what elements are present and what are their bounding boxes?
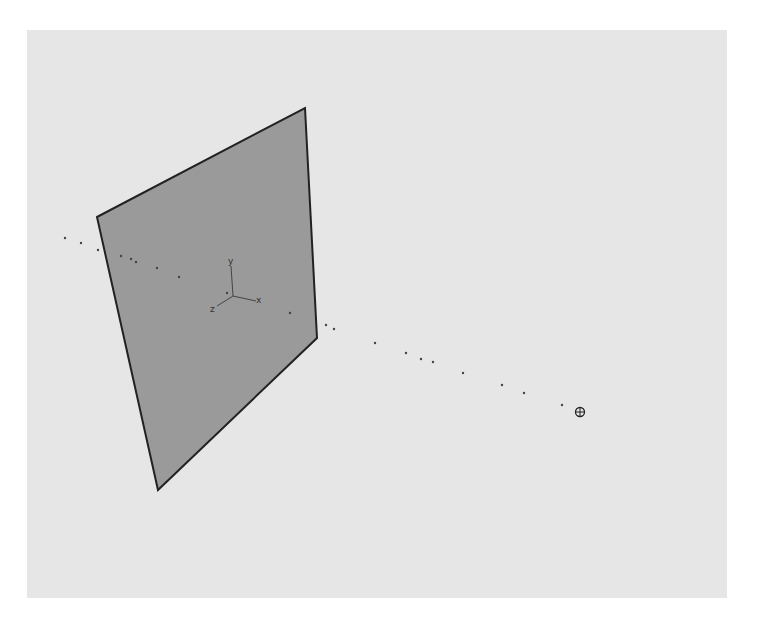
3d-viewport[interactable]: [27, 30, 727, 598]
